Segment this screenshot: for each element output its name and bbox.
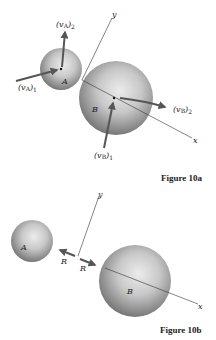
va1-label: (vA)1 (18, 83, 37, 93)
sphere-a-label: A (20, 243, 27, 252)
figure-10b: y x A B R R Figure 10b (11, 190, 203, 335)
figure-10a-caption: Figure 10a (161, 173, 203, 183)
sphere-b-center-dot (113, 97, 115, 99)
vb1-label: (vB)1 (94, 151, 113, 161)
sphere-a (11, 220, 53, 262)
sphere-b-label: B (126, 287, 133, 296)
x-axis-label: x (198, 302, 203, 311)
y-axis-label: y (111, 10, 117, 19)
force-r-left-arrow-icon (60, 250, 75, 256)
force-r-right-label: R (79, 264, 86, 273)
va2-label: (vA)2 (56, 20, 75, 30)
sphere-a-center-dot (60, 68, 62, 70)
figure-10b-caption: Figure 10b (160, 325, 202, 335)
collision-diagram: y x A B (vA)2 (vA)1 (vB)2 (vB)1 Figure (0, 0, 216, 340)
y-axis-line (78, 196, 99, 256)
sphere-b-label: B (91, 105, 98, 114)
vb2-label: (vB)2 (173, 105, 192, 115)
figure-10a: y x A B (vA)2 (vA)1 (vB)2 (vB)1 Figure (16, 10, 203, 183)
x-axis-label: x (193, 136, 198, 145)
y-axis-label: y (97, 190, 103, 199)
sphere-a-label: A (61, 77, 68, 86)
force-r-left-label: R (60, 257, 67, 266)
sphere-b (99, 245, 171, 317)
